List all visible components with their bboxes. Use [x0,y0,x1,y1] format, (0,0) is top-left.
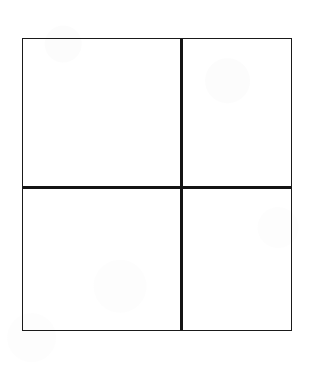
grid-cell-top-right[interactable] [183,39,291,186]
grid-cell-bottom-left[interactable] [23,189,158,330]
grid-divider-horizontal [23,186,291,189]
figure-canvas [0,0,316,367]
grid-cell-bottom-right[interactable] [183,189,291,330]
grid-divider-vertical [180,39,183,330]
grid-cell-top-left[interactable] [23,39,158,186]
grid-frame [22,38,292,331]
